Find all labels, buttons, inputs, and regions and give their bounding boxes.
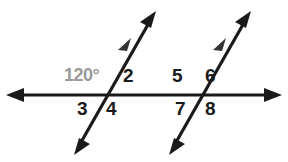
arrowhead-right <box>264 88 282 102</box>
parallel-right-top-arrowhead <box>235 11 251 28</box>
arrowhead-left <box>6 88 24 102</box>
parallel-right-bottom-arrowhead <box>169 138 185 155</box>
horizontal-transversal-line <box>6 88 282 102</box>
geometry-figure: 120° 2 3 4 5 6 7 8 <box>0 0 288 162</box>
angle-label-8: 8 <box>205 99 215 118</box>
parallel-left-tick-arrow-icon <box>118 38 131 51</box>
parallel-left-top-arrowhead <box>140 11 156 28</box>
angle-label-7: 7 <box>175 99 185 118</box>
parallel-right-tick-arrow-icon <box>213 38 226 51</box>
angle-label-6: 6 <box>205 66 215 85</box>
angle-label-2: 2 <box>123 66 133 85</box>
angle-label-3: 3 <box>77 99 87 118</box>
parallel-left-bottom-arrowhead <box>74 138 90 155</box>
geometry-canvas <box>0 0 288 162</box>
angle-label-120-degrees: 120° <box>64 66 99 84</box>
angle-label-4: 4 <box>106 99 116 118</box>
angle-label-5: 5 <box>172 66 182 85</box>
